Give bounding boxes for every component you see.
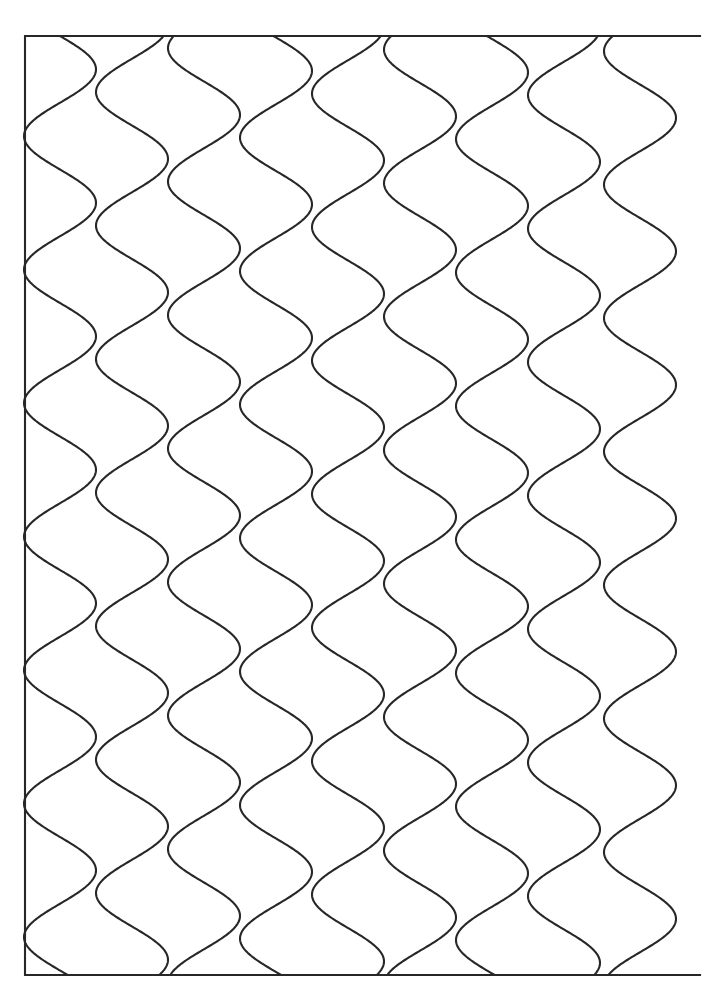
page-background <box>0 0 709 986</box>
coloring-page-canvas: Wavy Lines Pattern <box>0 0 709 986</box>
wave-pattern-illustration <box>0 0 709 986</box>
